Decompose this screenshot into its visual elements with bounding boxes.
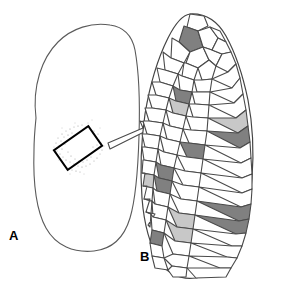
tissue-cell [192,92,210,105]
panel-b-group [141,14,253,278]
figure-container: A B [0,0,289,282]
tissue-cell [168,266,187,277]
figure-svg [0,0,289,282]
panel-label-b: B [140,250,149,263]
panel-label-a: A [9,229,18,242]
tissue-cell [194,79,212,92]
